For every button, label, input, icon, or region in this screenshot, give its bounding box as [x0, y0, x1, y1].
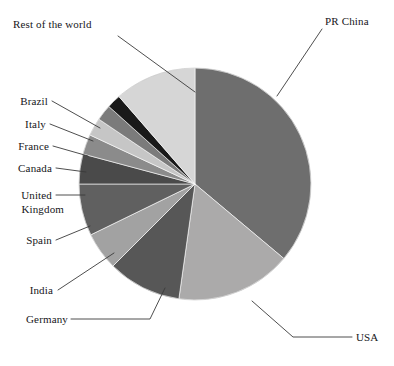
- leader-line-usa: [252, 301, 352, 337]
- leader-line-germany: [71, 288, 165, 319]
- pie-chart-figure: Rest of the world PR China USA Germany I…: [0, 0, 394, 366]
- pie-chart-svg: Rest of the world PR China USA Germany I…: [0, 0, 394, 366]
- pie-label-france: France: [18, 140, 49, 152]
- leader-line-italy: [50, 124, 93, 141]
- leader-line-pr-china: [277, 29, 322, 96]
- leader-line-france: [53, 146, 88, 156]
- pie-label-united-kingdom-line1: United: [21, 189, 52, 201]
- pie-label-italy: Italy: [25, 118, 46, 130]
- pie-label-india: India: [30, 284, 53, 296]
- pie-label-germany: Germany: [26, 313, 68, 325]
- leader-line-india: [58, 253, 114, 290]
- pie-slices-group: [79, 68, 311, 300]
- pie-label-canada: Canada: [18, 162, 52, 174]
- leader-line-spain: [56, 226, 90, 240]
- pie-label-brazil: Brazil: [20, 95, 48, 107]
- pie-label-united-kingdom-line2: Kingdom: [21, 203, 64, 215]
- pie-label-pr-china: PR China: [325, 15, 369, 27]
- pie-label-usa: USA: [356, 331, 378, 343]
- pie-label-spain: Spain: [26, 234, 52, 246]
- leader-line-brazil: [52, 101, 100, 128]
- pie-label-rest-of-the-world: Rest of the world: [13, 18, 92, 30]
